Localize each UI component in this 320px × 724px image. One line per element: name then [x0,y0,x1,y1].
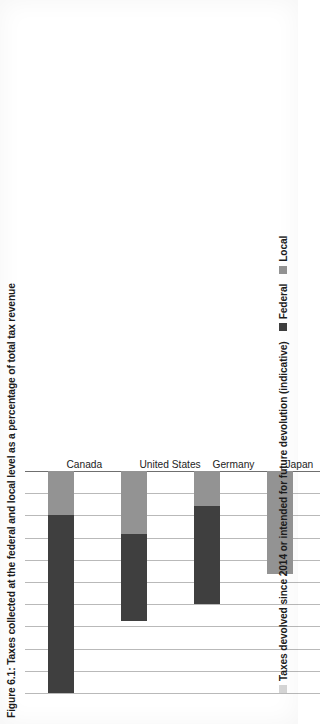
gridline-50pct [25,693,298,694]
category-label-germany: Germany [213,459,255,470]
legend-swatch-icon [279,323,287,331]
bar-segment-local [121,471,147,534]
bar-germany [194,471,220,604]
bar-segment-federal [194,506,220,605]
category-label-united-states: United States [140,459,201,470]
bar-segment-federal [121,534,147,620]
legend-item-1[interactable]: Federal [278,284,289,332]
legend-label: Taxes devolved since 2014 or intended fo… [278,341,289,681]
legend-item-2[interactable]: Taxes devolved since 2014 or intended fo… [278,341,289,693]
bar-segment-federal [48,515,74,693]
figure-title: Figure 6.1: Taxes collected at the feder… [6,283,17,718]
bar-united-states [121,471,147,621]
chart-legend: LocalFederalTaxes devolved since 2014 or… [272,236,294,693]
legend-label: Federal [278,284,289,320]
chart-plot-area [25,471,298,693]
rotated-figure-stage: Figure 6.1: Taxes collected at the feder… [0,0,298,724]
bar-canada [48,471,74,693]
legend-label: Local [278,236,289,262]
legend-swatch-icon [279,685,287,693]
legend-swatch-icon [279,266,287,274]
legend-item-0[interactable]: Local [278,236,289,274]
category-label-canada: Canada [67,459,103,470]
bar-segment-local [194,471,220,506]
bar-segment-local [48,471,74,515]
